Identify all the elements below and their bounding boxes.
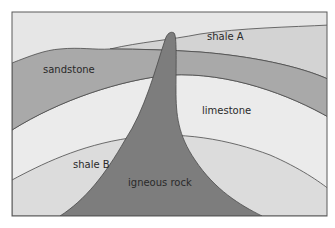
label-shale-b: shale B: [73, 159, 110, 170]
label-limestone: limestone: [202, 105, 251, 116]
label-shale-a: shale A: [207, 31, 244, 42]
geological-cross-section-diagram: shale A sandstone limestone shale B igne…: [0, 0, 335, 228]
label-igneous-rock: igneous rock: [128, 177, 192, 188]
label-sandstone: sandstone: [43, 64, 95, 75]
